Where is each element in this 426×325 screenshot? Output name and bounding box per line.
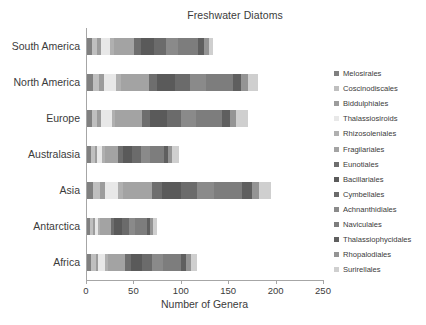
legend-swatch-icon xyxy=(334,71,339,76)
bar-segment xyxy=(134,38,141,55)
freshwater-diatoms-chart: Freshwater Diatoms South AmericaNorth Am… xyxy=(0,0,426,325)
bar-segment xyxy=(153,218,157,235)
y-axis-tick-label: Australasia xyxy=(28,146,80,163)
bar-segment xyxy=(100,218,110,235)
legend-item[interactable]: Achnanthidiales xyxy=(334,202,426,217)
bar-segment xyxy=(172,146,179,163)
legend-label: Coscinodiscales xyxy=(343,84,398,93)
bar-segment xyxy=(132,146,141,163)
bar-segment xyxy=(157,74,175,91)
bar-segment xyxy=(129,218,136,235)
legend-swatch-icon xyxy=(334,162,339,167)
bar-segment xyxy=(101,38,110,55)
bar-segment xyxy=(222,110,231,127)
bar-segment xyxy=(233,74,242,91)
y-axis-tick-label: South America xyxy=(12,38,80,55)
legend-label: Thalassiophycidales xyxy=(343,235,411,244)
legend-label: Rhopalodiales xyxy=(343,250,391,259)
legend-item[interactable]: Fragilariales xyxy=(334,141,426,156)
x-axis-tick-label: 50 xyxy=(113,285,153,296)
x-axis-tick xyxy=(133,280,134,284)
y-axis-labels: South AmericaNorth AmericaEuropeAustrala… xyxy=(0,28,80,280)
legend-item[interactable]: Melosirales xyxy=(334,66,426,81)
x-axis-tick xyxy=(181,280,182,284)
legend-item[interactable]: Rhizosoleniales xyxy=(334,126,426,141)
bar-segment xyxy=(214,182,242,199)
bar-segment xyxy=(252,182,260,199)
x-axis-tick xyxy=(276,280,277,284)
x-axis-tick xyxy=(86,280,87,284)
x-axis-line xyxy=(86,280,323,281)
bar-segment xyxy=(209,38,213,55)
legend-item[interactable]: Thalassiophycidales xyxy=(334,232,426,247)
bar-segment xyxy=(149,74,158,91)
legend-item[interactable]: Surirellales xyxy=(334,262,426,277)
legend-swatch-icon xyxy=(334,147,339,152)
bar-row xyxy=(87,74,258,91)
legend-label: Biddulphiales xyxy=(343,99,388,108)
bar-segment xyxy=(154,38,165,55)
bar-segment xyxy=(131,254,142,271)
x-axis-tick-label: 0 xyxy=(66,285,106,296)
legend-label: Cymbellales xyxy=(343,190,384,199)
bar-row xyxy=(87,182,271,199)
bar-segment xyxy=(190,74,206,91)
legend-swatch-icon xyxy=(334,207,339,212)
bar-segment xyxy=(114,38,135,55)
y-axis-tick-label: North America xyxy=(13,74,80,91)
bar-segment xyxy=(135,218,146,235)
legend-item[interactable]: Thalassiosiroids xyxy=(334,111,426,126)
y-axis-tick-label: Europe xyxy=(46,110,80,127)
bar-segment xyxy=(181,110,196,127)
y-axis-tick-label: Asia xyxy=(60,182,80,199)
legend-item[interactable]: Bacillariales xyxy=(334,172,426,187)
bar-segment xyxy=(122,218,129,235)
legend-item[interactable]: Coscinodiscales xyxy=(334,81,426,96)
y-axis-tick-label: Antarctica xyxy=(33,218,80,235)
bar-row xyxy=(87,146,179,163)
bar-segment xyxy=(98,254,105,271)
x-axis-tick-label: 100 xyxy=(161,285,201,296)
x-axis-tick-label: 250 xyxy=(303,285,343,296)
legend-swatch-icon xyxy=(334,177,339,182)
legend-label: Bacillariales xyxy=(343,175,384,184)
bar-segment xyxy=(241,74,248,91)
bar-segment xyxy=(108,254,125,271)
bar-segment xyxy=(93,74,100,91)
bar-segment xyxy=(181,182,197,199)
x-axis-tick-label: 150 xyxy=(208,285,248,296)
legend-label: Achnanthidiales xyxy=(343,205,397,214)
legend-swatch-icon xyxy=(334,131,339,136)
x-axis-title: Number of Genera xyxy=(86,298,323,310)
bar-segment xyxy=(105,182,118,199)
legend-swatch-icon xyxy=(334,86,339,91)
bar-segment xyxy=(198,38,205,55)
bar-segment xyxy=(150,110,167,127)
page-title: Freshwater Diatoms xyxy=(150,9,320,21)
legend-item[interactable]: Naviculales xyxy=(334,217,426,232)
legend-label: Thalassiosiroids xyxy=(343,114,397,123)
bar-segment xyxy=(142,254,152,271)
bar-segment xyxy=(163,254,181,271)
bar-segment xyxy=(162,182,181,199)
bar-segment xyxy=(259,182,270,199)
legend-item[interactable]: Rhopalodiales xyxy=(334,247,426,262)
bar-segment xyxy=(152,254,162,271)
bar-segment xyxy=(242,182,251,199)
legend-swatch-icon xyxy=(334,101,339,106)
bar-segment xyxy=(123,146,132,163)
legend-swatch-icon xyxy=(334,237,339,242)
legend-item[interactable]: Cymbellales xyxy=(334,187,426,202)
legend-swatch-icon xyxy=(334,222,339,227)
bar-segment xyxy=(150,146,164,163)
legend-item[interactable]: Biddulphiales xyxy=(334,96,426,111)
bar-segment xyxy=(197,182,214,199)
bar-segment xyxy=(175,74,190,91)
bar-segment xyxy=(166,38,178,55)
legend: MelosiralesCoscinodiscalesBiddulphialesT… xyxy=(334,66,426,277)
legend-swatch-icon xyxy=(334,192,339,197)
legend-item[interactable]: Eunotiales xyxy=(334,157,426,172)
x-axis-tick xyxy=(228,280,229,284)
legend-label: Melosirales xyxy=(343,69,381,78)
bar-segment xyxy=(142,110,150,127)
